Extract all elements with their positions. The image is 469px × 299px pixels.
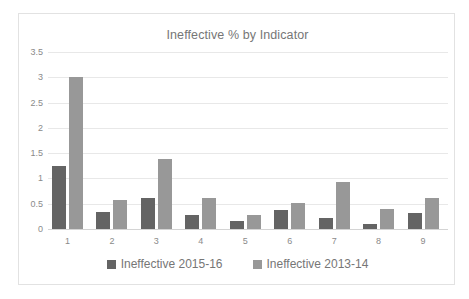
y-axis-tick-label: 1.5 — [30, 148, 43, 158]
bar-group: 6 — [270, 52, 314, 229]
bar-series-2 — [425, 198, 439, 229]
chart-legend: Ineffective 2015-16Ineffective 2013-14 — [19, 257, 456, 271]
y-axis-tick-label: 1 — [38, 173, 43, 183]
x-axis-tick-label: 4 — [181, 236, 220, 246]
bar-series-2 — [291, 203, 305, 229]
axis-baseline: 0 — [48, 229, 448, 230]
chart-container: Ineffective % by Indicator 00.511.522.53… — [18, 13, 455, 285]
bar-series-2 — [247, 215, 261, 229]
bar-group: 3 — [137, 52, 181, 229]
x-axis-tick-label: 2 — [92, 236, 131, 246]
bar-series-1 — [141, 198, 155, 229]
bar-series-1 — [274, 210, 288, 229]
y-axis-tick-label: 2 — [38, 123, 43, 133]
x-axis-tick-label: 5 — [226, 236, 265, 246]
y-axis-tick-label: 3.5 — [30, 47, 43, 57]
bar-series-1 — [319, 218, 333, 229]
x-axis-tick-label: 8 — [359, 236, 398, 246]
bar-group: 5 — [226, 52, 270, 229]
y-axis-tick-label: 3 — [38, 72, 43, 82]
x-axis-tick-label: 1 — [48, 236, 87, 246]
legend-swatch-icon — [253, 260, 262, 269]
bar-group: 1 — [48, 52, 92, 229]
bar-series-2 — [202, 198, 216, 229]
y-axis-tick-label: 2.5 — [30, 98, 43, 108]
x-axis-tick-label: 7 — [315, 236, 354, 246]
legend-label: Ineffective 2015-16 — [121, 257, 223, 271]
plot-area: 00.511.522.533.5123456789 — [48, 52, 448, 229]
legend-item[interactable]: Ineffective 2015-16 — [107, 257, 223, 271]
bar-series-2 — [336, 182, 350, 229]
legend-swatch-icon — [107, 260, 116, 269]
bar-group: 2 — [92, 52, 136, 229]
bar-series-1 — [185, 215, 199, 229]
legend-item[interactable]: Ineffective 2013-14 — [253, 257, 369, 271]
x-axis-tick-label: 6 — [270, 236, 309, 246]
bar-series-2 — [158, 159, 172, 229]
bar-series-1 — [96, 212, 110, 229]
y-axis-tick-label: 0 — [38, 224, 43, 234]
bar-group: 4 — [181, 52, 225, 229]
x-axis-tick-label: 3 — [137, 236, 176, 246]
bar-series-1 — [230, 221, 244, 229]
bar-series-1 — [52, 166, 66, 229]
bar-group: 9 — [404, 52, 448, 229]
bar-series-1 — [363, 224, 377, 229]
y-axis-tick-label: 0.5 — [30, 199, 43, 209]
bar-series-2 — [380, 209, 394, 229]
bar-series-2 — [113, 200, 127, 229]
legend-label: Ineffective 2013-14 — [267, 257, 369, 271]
x-axis-tick-label: 9 — [404, 236, 443, 246]
bar-series-2 — [69, 77, 83, 229]
bar-group: 7 — [315, 52, 359, 229]
chart-title: Ineffective % by Indicator — [19, 28, 456, 42]
bar-series-1 — [408, 213, 422, 229]
bar-group: 8 — [359, 52, 403, 229]
